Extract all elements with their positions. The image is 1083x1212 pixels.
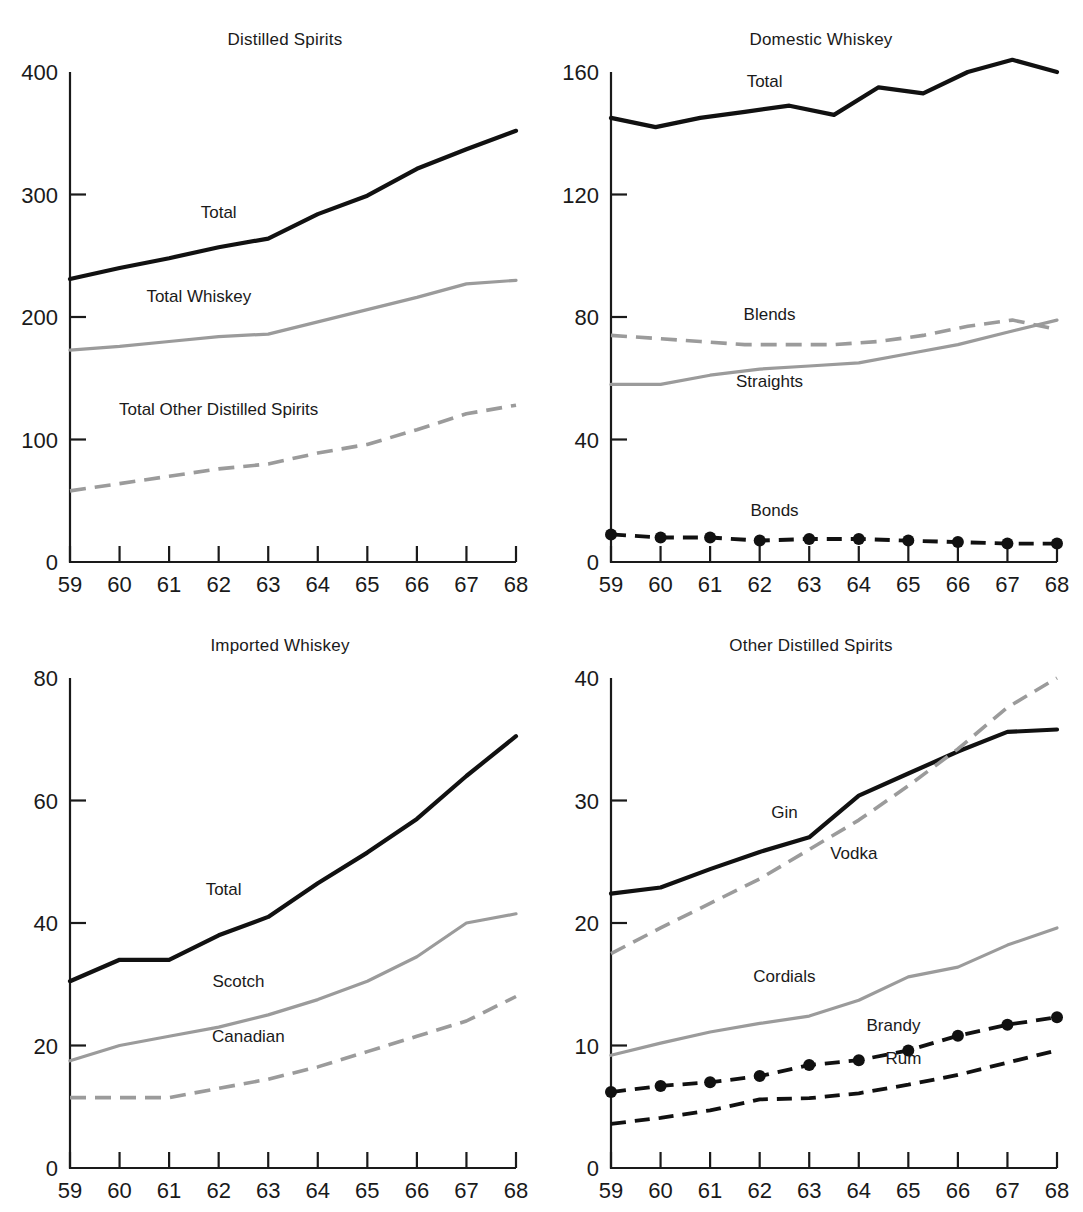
y-axis-tick-label: 0 bbox=[587, 1156, 599, 1181]
x-axis-tick-label: 66 bbox=[946, 572, 970, 597]
series-line-total bbox=[70, 736, 516, 981]
y-axis-tick-label: 20 bbox=[575, 911, 599, 936]
x-axis-tick-label: 66 bbox=[405, 1178, 429, 1203]
y-axis-tick-label: 160 bbox=[562, 60, 599, 85]
y-axis-tick-label: 200 bbox=[21, 305, 58, 330]
series-marker-brandy bbox=[853, 1054, 865, 1066]
series-line-total bbox=[70, 131, 516, 279]
chart-panel-distilled-spirits: Distilled Spirits 0100200300400596061626… bbox=[0, 0, 541, 606]
series-label-straights: Straights bbox=[736, 372, 803, 391]
series-label-blends: Blends bbox=[744, 305, 796, 324]
x-axis-tick-label: 67 bbox=[995, 1178, 1019, 1203]
y-axis-tick-label: 300 bbox=[21, 183, 58, 208]
y-axis-tick-label: 80 bbox=[575, 305, 599, 330]
x-axis-tick-label: 61 bbox=[157, 1178, 181, 1203]
series-label-bonds: Bonds bbox=[750, 501, 798, 520]
series-line-canadian bbox=[70, 997, 516, 1098]
series-label-rum: Rum bbox=[885, 1049, 921, 1068]
x-axis-tick-label: 67 bbox=[454, 1178, 478, 1203]
series-line-scotch bbox=[70, 914, 516, 1061]
series-line-total bbox=[611, 60, 1057, 127]
x-axis-tick-label: 66 bbox=[405, 572, 429, 597]
series-label-gin: Gin bbox=[771, 803, 797, 822]
x-axis-tick-label: 59 bbox=[58, 1178, 82, 1203]
x-axis-tick-label: 65 bbox=[896, 572, 920, 597]
y-axis-tick-label: 30 bbox=[575, 789, 599, 814]
y-axis-tick-label: 60 bbox=[34, 789, 58, 814]
figure-sheet: Distilled Spirits 0100200300400596061626… bbox=[0, 0, 1083, 1212]
axis-lines bbox=[70, 72, 516, 562]
x-axis-tick-label: 64 bbox=[306, 572, 330, 597]
series-marker-brandy bbox=[754, 1070, 766, 1082]
series-label-canadian: Canadian bbox=[212, 1027, 285, 1046]
series-label-total: Total bbox=[201, 203, 237, 222]
x-axis-tick-label: 60 bbox=[648, 572, 672, 597]
x-axis-tick-label: 62 bbox=[206, 1178, 230, 1203]
y-axis-tick-label: 40 bbox=[575, 666, 599, 691]
y-axis-tick-label: 10 bbox=[575, 1034, 599, 1059]
y-axis-tick-label: 400 bbox=[21, 60, 58, 85]
series-label-total: Total bbox=[747, 72, 783, 91]
x-axis-tick-label: 60 bbox=[107, 572, 131, 597]
x-axis-tick-label: 59 bbox=[599, 572, 623, 597]
series-marker-bonds bbox=[803, 533, 815, 545]
x-axis-tick-label: 60 bbox=[648, 1178, 672, 1203]
x-axis-tick-label: 61 bbox=[698, 1178, 722, 1203]
series-line-straights bbox=[611, 320, 1057, 384]
series-label-vodka: Vodka bbox=[830, 844, 878, 863]
series-line-bonds bbox=[611, 534, 1057, 543]
y-axis-tick-label: 100 bbox=[21, 428, 58, 453]
series-marker-brandy bbox=[1051, 1011, 1063, 1023]
chart-plot-domestic-whiskey: 0408012016059606162636465666768TotalBlen… bbox=[541, 0, 1082, 606]
x-axis-tick-label: 61 bbox=[157, 572, 181, 597]
x-axis-tick-label: 65 bbox=[355, 1178, 379, 1203]
x-axis-tick-label: 67 bbox=[454, 572, 478, 597]
series-label-brandy: Brandy bbox=[867, 1016, 921, 1035]
series-line-total-whiskey bbox=[70, 280, 516, 350]
x-axis-tick-label: 65 bbox=[896, 1178, 920, 1203]
chart-panel-domestic-whiskey: Domestic Whiskey 04080120160596061626364… bbox=[541, 0, 1082, 606]
x-axis-tick-label: 68 bbox=[504, 1178, 528, 1203]
x-axis-tick-label: 68 bbox=[504, 572, 528, 597]
chart-panel-imported-whiskey: Imported Whiskey 02040608059606162636465… bbox=[0, 606, 541, 1212]
series-label-total-whiskey: Total Whiskey bbox=[146, 287, 251, 306]
series-marker-bonds bbox=[902, 535, 914, 547]
series-label-total: Total bbox=[206, 880, 242, 899]
x-axis-tick-label: 61 bbox=[698, 572, 722, 597]
x-axis-tick-label: 66 bbox=[946, 1178, 970, 1203]
y-axis-tick-label: 120 bbox=[562, 183, 599, 208]
series-marker-bonds bbox=[704, 532, 716, 544]
chart-plot-imported-whiskey: 02040608059606162636465666768TotalScotch… bbox=[0, 606, 541, 1212]
x-axis-tick-label: 63 bbox=[256, 572, 280, 597]
x-axis-tick-label: 59 bbox=[58, 572, 82, 597]
x-axis-tick-label: 64 bbox=[847, 1178, 871, 1203]
y-axis-tick-label: 80 bbox=[34, 666, 58, 691]
series-line-blends bbox=[611, 320, 1057, 345]
y-axis-tick-label: 20 bbox=[34, 1034, 58, 1059]
series-marker-bonds bbox=[1001, 538, 1013, 550]
x-axis-tick-label: 63 bbox=[256, 1178, 280, 1203]
x-axis-tick-label: 63 bbox=[797, 572, 821, 597]
series-marker-brandy bbox=[803, 1059, 815, 1071]
series-marker-bonds bbox=[655, 532, 667, 544]
x-axis-tick-label: 68 bbox=[1045, 572, 1069, 597]
x-axis-tick-label: 62 bbox=[747, 1178, 771, 1203]
y-axis-tick-label: 40 bbox=[34, 911, 58, 936]
series-label-total-other-distilled-spirits: Total Other Distilled Spirits bbox=[119, 400, 318, 419]
series-marker-brandy bbox=[655, 1080, 667, 1092]
series-marker-bonds bbox=[605, 528, 617, 540]
axis-lines bbox=[611, 72, 1057, 562]
chart-plot-other-distilled-spirits: 01020304059606162636465666768GinVodkaCor… bbox=[541, 606, 1082, 1212]
series-label-cordials: Cordials bbox=[753, 967, 815, 986]
y-axis-tick-label: 0 bbox=[587, 550, 599, 575]
series-marker-bonds bbox=[754, 535, 766, 547]
series-line-brandy bbox=[611, 1017, 1057, 1092]
series-marker-bonds bbox=[1051, 538, 1063, 550]
series-marker-bonds bbox=[853, 533, 865, 545]
x-axis-tick-label: 65 bbox=[355, 572, 379, 597]
x-axis-tick-label: 68 bbox=[1045, 1178, 1069, 1203]
series-marker-brandy bbox=[1001, 1019, 1013, 1031]
series-marker-brandy bbox=[704, 1076, 716, 1088]
x-axis-tick-label: 59 bbox=[599, 1178, 623, 1203]
series-line-gin bbox=[611, 730, 1057, 894]
